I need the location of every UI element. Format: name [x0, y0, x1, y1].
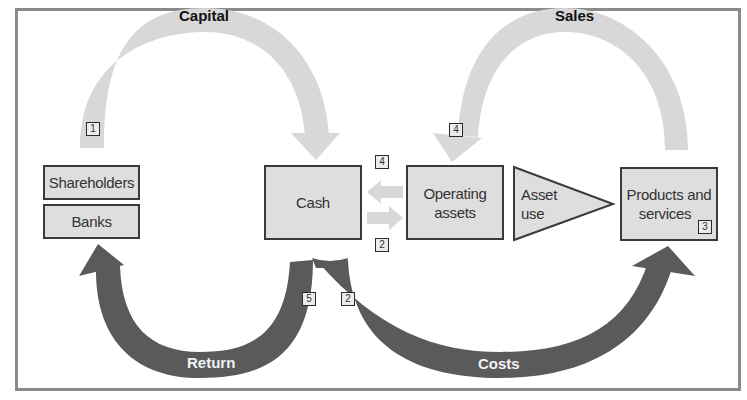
capital-label: Capital	[179, 7, 229, 24]
cash-to-operating-arrow	[367, 206, 403, 230]
banks-text: Banks	[71, 212, 111, 231]
operating-to-cash-arrow	[367, 180, 403, 204]
step-badge-cash-in: 4	[375, 155, 389, 169]
step-badge-return: 5	[302, 292, 316, 306]
step-badge-capital: 1	[86, 122, 100, 136]
cash-box: Cash	[264, 165, 362, 240]
banks-box: Banks	[43, 204, 140, 239]
step-badge-costs: 2	[341, 292, 355, 306]
shareholders-text: Shareholders	[49, 173, 135, 192]
sales-label: Sales	[555, 7, 594, 24]
step-badge-sales: 4	[449, 123, 463, 137]
sales-arrow	[433, 8, 688, 162]
asset-use-text-1: Asset	[521, 185, 557, 204]
asset-use-text-2: use	[521, 204, 544, 223]
step-badge-products: 3	[698, 220, 712, 234]
return-label: Return	[187, 354, 235, 371]
products-services-text-1: Products and	[627, 185, 712, 204]
costs-label: Costs	[478, 355, 520, 372]
step-badge-cash-out: 2	[375, 238, 389, 252]
capital-arrow	[80, 8, 340, 160]
products-services-text-2: services	[639, 204, 692, 223]
cash-text: Cash	[296, 193, 330, 212]
operating-assets-box: Operating assets	[406, 165, 504, 240]
shareholders-box: Shareholders	[43, 165, 140, 200]
operating-assets-text-2: assets	[434, 203, 476, 222]
operating-assets-text-1: Operating	[423, 184, 486, 203]
cash-outflow-junction	[312, 258, 348, 268]
